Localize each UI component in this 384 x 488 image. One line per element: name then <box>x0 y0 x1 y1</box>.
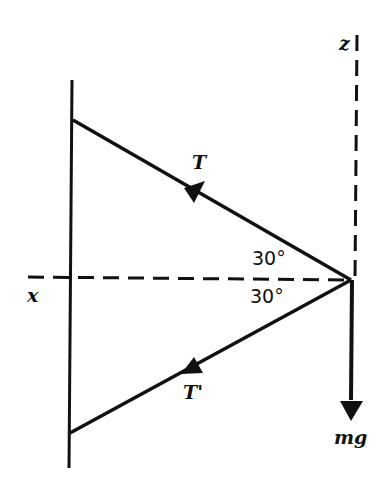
tension-lower-arrowhead <box>181 357 203 374</box>
force-diagram <box>0 0 384 488</box>
x-axis-label: x <box>27 286 38 305</box>
angle-upper-label: 30° <box>252 249 286 268</box>
z-axis-label: z <box>339 34 350 53</box>
tension-upper-line <box>73 120 351 280</box>
weight-arrowhead <box>340 401 363 421</box>
wall-line <box>69 80 72 468</box>
x-axis <box>28 277 350 280</box>
weight-label: mg <box>334 428 367 447</box>
tension-upper-label: T <box>192 153 206 172</box>
weight-line <box>351 280 352 400</box>
tension-lower-label: T' <box>183 383 203 402</box>
angle-lower-label: 30° <box>250 287 284 306</box>
tension-lower-line <box>70 280 351 433</box>
z-axis <box>355 35 357 280</box>
